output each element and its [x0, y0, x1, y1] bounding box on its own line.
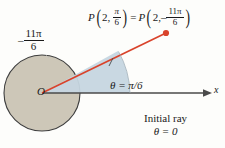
negative-angle-numerator: 11π: [166, 7, 183, 17]
initial-ray-caption: Initial ray θ = 0: [144, 113, 187, 137]
point-p-symbol: P: [88, 11, 95, 23]
open-paren-1: (: [96, 6, 101, 28]
polar-coordinates-figure: P(2, π6)=P(2,–11π6) –11π6 θ = π/6 O x In…: [0, 0, 225, 148]
negative-angle-measure-label: –11π6: [18, 28, 44, 52]
point-p-label: P(2, π6)=P(2,–11π6): [88, 6, 191, 28]
open-paren-2: (: [147, 6, 152, 28]
positive-angle-denominator: 6: [113, 18, 122, 27]
x-axis-label: x: [214, 85, 218, 95]
negative-angle-measure-denominator: 6: [24, 41, 44, 53]
point-p-comma-1: ,: [108, 11, 111, 23]
negative-angle-measure-fraction: 11π6: [24, 28, 44, 52]
positive-angle-fraction: π6: [113, 7, 122, 27]
point-p-marker: [163, 30, 169, 36]
equals-sign: =: [128, 11, 138, 23]
close-paren-1: ): [122, 6, 127, 28]
theta-angle-label: θ = π/6: [110, 80, 142, 91]
initial-ray-caption-line1: Initial ray: [144, 112, 187, 124]
positive-angle-numerator: π: [113, 7, 122, 17]
negative-angle-fraction: 11π6: [166, 7, 183, 27]
close-paren-2: ): [185, 6, 190, 28]
x-axis-arrowhead: [203, 89, 212, 97]
origin-label: O: [37, 86, 45, 97]
negative-angle-denominator: 6: [166, 18, 183, 27]
negative-angle-measure-numerator: 11π: [24, 28, 44, 41]
point-p-symbol-2: P: [139, 11, 146, 23]
initial-ray-caption-line2: θ = 0: [144, 126, 187, 137]
